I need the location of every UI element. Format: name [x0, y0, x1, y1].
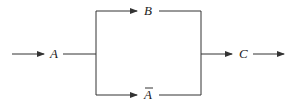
- label-b: B: [144, 3, 152, 18]
- label-c: C: [239, 46, 248, 61]
- flow-diagram: A B A C: [0, 0, 297, 102]
- label-not-a: A: [143, 87, 152, 102]
- label-a: A: [49, 46, 58, 61]
